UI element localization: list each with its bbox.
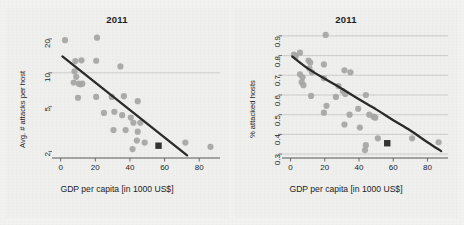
scatter-point[interactable] xyxy=(341,121,347,127)
scatter-point[interactable] xyxy=(94,35,100,41)
scatter-point[interactable] xyxy=(129,146,135,152)
y-tick-label: 0.8 xyxy=(273,56,282,67)
y-tick-label: 0.6 xyxy=(273,95,282,106)
scatter-point[interactable] xyxy=(123,127,129,133)
x-tick-label: 40 xyxy=(125,163,134,172)
scatter-point[interactable] xyxy=(300,82,306,88)
y-tick-label: 0.3 xyxy=(273,154,282,165)
scatter-point[interactable] xyxy=(357,124,363,130)
scatter-point[interactable] xyxy=(363,92,369,98)
x-tick-label: 60 xyxy=(160,163,169,172)
scatter-point[interactable] xyxy=(307,59,313,65)
chart-panel-left: 2011 GDP per capita [in 1000 US$] Avg. #… xyxy=(6,8,228,218)
scatter-point[interactable] xyxy=(78,57,84,63)
scatter-point[interactable] xyxy=(341,67,347,73)
scatter-point[interactable] xyxy=(117,63,123,69)
scatter-point[interactable] xyxy=(308,93,314,99)
x-tick-label: 60 xyxy=(389,163,398,172)
y-tick-label: 20 xyxy=(43,39,52,48)
x-tick-label: 20 xyxy=(91,163,100,172)
highlight-marker[interactable] xyxy=(155,143,161,149)
x-tick-label: 20 xyxy=(320,163,329,172)
highlight-marker[interactable] xyxy=(384,140,390,146)
y-tick-label: 10 xyxy=(43,73,52,82)
scatter-point[interactable] xyxy=(375,135,381,141)
trend-fit-line[interactable] xyxy=(62,56,187,155)
scatter-point[interactable] xyxy=(72,58,78,64)
y-axis-label: % attacked hosts xyxy=(248,80,257,138)
scatter-point[interactable] xyxy=(321,110,327,116)
scatter-point[interactable] xyxy=(323,32,329,38)
scatter-point[interactable] xyxy=(435,139,441,145)
scatter-point[interactable] xyxy=(333,94,339,100)
x-axis-label-left: GDP per capita [in 1000 US$] xyxy=(6,184,228,194)
scatter-point[interactable] xyxy=(111,109,117,115)
scatter-point[interactable] xyxy=(71,68,77,74)
scatter-point[interactable] xyxy=(135,129,141,135)
x-tick-label: 80 xyxy=(423,163,432,172)
x-tick-label: 0 xyxy=(288,163,292,172)
y-tick-label: 0.5 xyxy=(273,115,282,126)
y-tick-label: 2 xyxy=(43,152,52,156)
scatter-point[interactable] xyxy=(119,112,125,118)
y-tick-label: 0.9 xyxy=(273,36,282,47)
y-axis-label: Avg. # attacks per host xyxy=(18,71,27,148)
scatter-point[interactable] xyxy=(372,115,378,121)
chart-panel-right: 2011 GDP per capita [in 1000 US$] % atta… xyxy=(234,8,458,218)
scatter-point[interactable] xyxy=(71,79,77,85)
scatter-point[interactable] xyxy=(101,110,107,116)
scatter-point[interactable] xyxy=(93,58,99,64)
scatter-point[interactable] xyxy=(323,103,329,109)
x-axis-label-right: GDP per capita [in 1000 US$] xyxy=(234,184,458,194)
scatter-point[interactable] xyxy=(134,137,140,143)
scatter-point[interactable] xyxy=(355,106,361,112)
scatter-point[interactable] xyxy=(347,112,353,118)
scatter-point[interactable] xyxy=(110,127,116,133)
scatter-point[interactable] xyxy=(182,139,188,145)
scatter-point[interactable] xyxy=(321,61,327,67)
scatter-point[interactable] xyxy=(347,69,353,75)
figure-container: 2011 GDP per capita [in 1000 US$] Avg. #… xyxy=(0,0,464,225)
x-tick-label: 0 xyxy=(58,163,62,172)
y-tick-label: 0.4 xyxy=(273,134,282,145)
scatter-point[interactable] xyxy=(207,144,213,150)
scatter-point[interactable] xyxy=(73,74,79,80)
scatter-point[interactable] xyxy=(75,95,81,101)
x-tick-label: 80 xyxy=(195,163,204,172)
scatter-point[interactable] xyxy=(62,37,68,43)
scatter-point[interactable] xyxy=(142,139,148,145)
scatter-point[interactable] xyxy=(135,98,141,104)
scatter-point[interactable] xyxy=(362,147,368,153)
scatter-point[interactable] xyxy=(77,81,83,87)
y-tick-label: 5 xyxy=(43,107,52,111)
y-tick-label: 0.7 xyxy=(273,75,282,86)
scatter-point[interactable] xyxy=(409,135,415,141)
scatter-point[interactable] xyxy=(121,93,127,99)
scatter-point[interactable] xyxy=(130,120,136,126)
x-tick-label: 40 xyxy=(355,163,364,172)
scatter-point[interactable] xyxy=(93,94,99,100)
